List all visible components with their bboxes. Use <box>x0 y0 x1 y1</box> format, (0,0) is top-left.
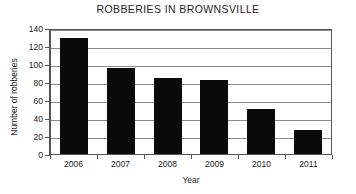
x-axis-tick-label: 2010 <box>238 159 285 169</box>
bar-chart-figure: ROBBERIES IN BROWNSVILLE 020406080100120… <box>0 0 356 194</box>
x-axis-tick-label: 2009 <box>191 159 238 169</box>
y-axis-tick-label: 140 <box>29 24 43 34</box>
bar-slot <box>51 30 97 154</box>
y-axis-title: Number of robberies <box>9 37 19 157</box>
y-axis-tick-label: 80 <box>34 78 43 88</box>
bar-slot <box>238 30 284 154</box>
y-axis-tick-label: 20 <box>34 132 43 142</box>
y-axis-tick-label: 120 <box>29 42 43 52</box>
bar-series <box>51 30 331 154</box>
bar-slot <box>144 30 190 154</box>
y-axis: 020406080100120140 <box>0 29 50 155</box>
y-axis-tick-label: 100 <box>29 60 43 70</box>
chart-title: ROBBERIES IN BROWNSVILLE <box>0 3 356 15</box>
bar-2010 <box>247 109 275 154</box>
x-axis-title: Year <box>50 175 332 185</box>
x-axis-tick-label: 2011 <box>285 159 332 169</box>
x-axis-tick-labels: 200620072008200920102011 <box>50 159 332 169</box>
bar-2007 <box>107 68 135 154</box>
bar-slot <box>191 30 237 154</box>
bar-2006 <box>60 38 88 154</box>
x-axis-tick-label: 2007 <box>97 159 144 169</box>
plot-area <box>50 29 332 155</box>
bar-slot <box>98 30 144 154</box>
x-axis-tick-label: 2006 <box>50 159 97 169</box>
y-axis-tick-label: 0 <box>38 150 43 160</box>
x-axis-tick-label: 2008 <box>144 159 191 169</box>
bar-2009 <box>200 80 228 154</box>
bar-2008 <box>154 78 182 154</box>
bar-slot <box>284 30 330 154</box>
bar-2011 <box>294 130 322 154</box>
y-axis-tick-label: 40 <box>34 114 43 124</box>
x-axis-tick <box>332 155 333 159</box>
y-axis-tick-label: 60 <box>34 96 43 106</box>
